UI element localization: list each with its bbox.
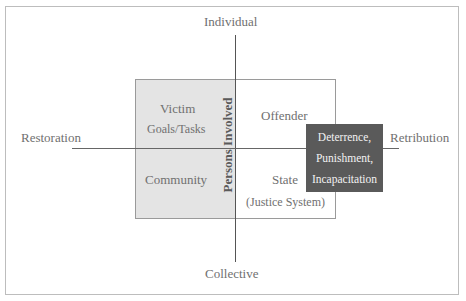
retribution-goals-box: Deterrence, Punishment, Incapacitation: [306, 124, 383, 192]
quadrant-victim-subtitle: Goals/Tasks: [147, 122, 206, 137]
quadrant-state-title: State: [272, 172, 298, 188]
goal-line: Punishment,: [316, 152, 373, 164]
quadrant-offender-title: Offender: [261, 108, 308, 124]
goal-line: Deterrence,: [318, 131, 371, 143]
goal-line: Incapacitation: [312, 173, 377, 185]
axis-label-retribution: Retribution: [390, 130, 449, 146]
quadrant-victim-title: Victim: [160, 101, 195, 117]
quadrant-state-subtitle: (Justice System): [246, 195, 325, 210]
persons-involved-label-wrap: Persons Involved: [220, 93, 236, 197]
axis-label-collective: Collective: [205, 266, 258, 282]
axis-label-restoration: Restoration: [21, 130, 81, 146]
quadrant-community-title: Community: [145, 172, 207, 188]
persons-involved-label: Persons Involved: [220, 98, 236, 193]
axis-label-individual: Individual: [204, 14, 257, 30]
